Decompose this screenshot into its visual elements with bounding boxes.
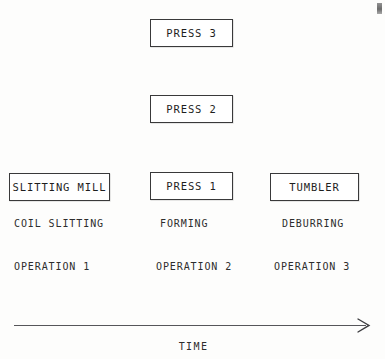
operation-label-2: OPERATION 2 [156,261,232,272]
time-axis-line [14,325,366,326]
operation-label-1: OPERATION 1 [14,261,90,272]
machine-box-press-1: PRESS 1 [150,172,233,200]
process-label-operation-2: FORMING [160,218,208,229]
operation-label-3: OPERATION 3 [274,261,350,272]
machine-box-tumbler-label: TUMBLER [289,181,340,193]
machine-box-slitting-mill: SLITTING MILL [9,173,110,201]
time-axis-label: TIME [0,341,385,352]
process-label-operation-3: DEBURRING [282,218,344,229]
machine-box-press-1-label: PRESS 1 [166,180,217,192]
machine-box-slitting-mill-label: SLITTING MILL [13,181,107,193]
machine-box-press-3: PRESS 3 [150,19,233,47]
time-axis-label-text: TIME [177,341,209,352]
machine-box-tumbler: TUMBLER [270,173,359,201]
machine-box-press-3-label: PRESS 3 [166,27,217,39]
machine-box-press-2: PRESS 2 [150,95,233,123]
time-axis-arrow-icon [357,318,371,333]
scan-artifact-mark [377,3,382,14]
machine-box-press-2-label: PRESS 2 [166,103,217,115]
process-label-operation-1: COIL SLITTING [14,218,104,229]
process-diagram-canvas: PRESS 3 PRESS 2 SLITTING MILL PRESS 1 TU… [0,0,385,359]
